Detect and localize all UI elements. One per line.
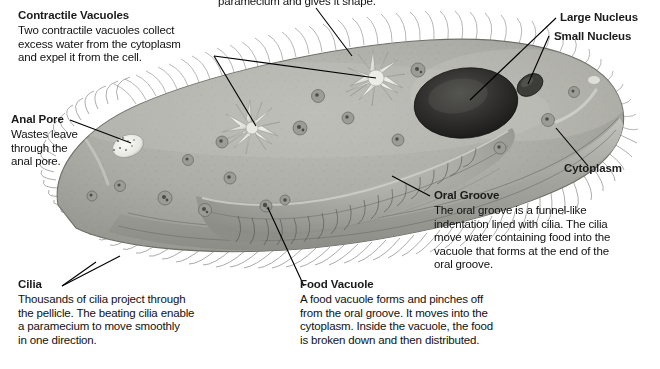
caption-pellicle-partial: paramecium and gives it shape. (218, 0, 376, 9)
label-large-nucleus: Large Nucleus (560, 11, 638, 24)
text-cilia: Thousands of cilia project through the p… (18, 293, 194, 347)
leader-cilia-a (62, 256, 120, 286)
label-anal-pore: Anal Pore (11, 113, 64, 126)
label-small-nucleus: Small Nucleus (554, 30, 631, 43)
label-cytoplasm: Cytoplasm (564, 162, 622, 175)
label-food-vacuole: Food Vacuole (300, 278, 374, 291)
text-oral-groove: The oral groove is a funnel-like indenta… (434, 204, 610, 272)
text-contractile-vacuoles: Two contractile vacuoles collect excess … (18, 24, 181, 65)
text-food-vacuole: A food vacuole forms and pinches off fro… (300, 293, 493, 347)
text-anal-pore: Wastes leave through the anal pore. (11, 128, 78, 169)
label-cilia: Cilia (18, 278, 42, 291)
label-contractile-vacuoles: Contractile Vacuoles (18, 9, 129, 22)
label-oral-groove: Oral Groove (434, 189, 499, 202)
leader-cilia-b (62, 262, 96, 286)
paramecium-diagram: paramecium and gives it shape. Contracti… (0, 0, 660, 369)
